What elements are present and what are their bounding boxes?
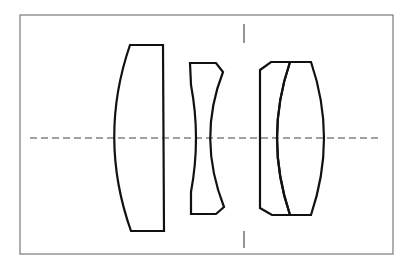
diagram-frame <box>20 15 393 254</box>
lens-diagram <box>0 0 414 262</box>
